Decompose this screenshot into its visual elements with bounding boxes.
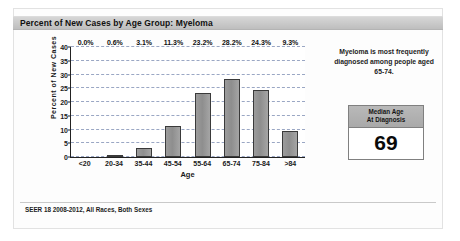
bar[interactable]: 9.3%: [282, 131, 298, 157]
bar-slot[interactable]: 9.3%: [276, 47, 305, 157]
median-age-box: Median Age At Diagnosis 69: [348, 105, 424, 160]
x-axis-tick-label: 75-84: [246, 160, 275, 167]
y-axis-tick-label: 35: [60, 57, 68, 64]
x-axis-title: Age: [70, 170, 305, 179]
median-age-header: Median Age At Diagnosis: [349, 106, 423, 128]
y-axis-tick-label: 30: [60, 71, 68, 78]
bar-slot[interactable]: 11.3%: [159, 47, 188, 157]
bar-slot[interactable]: 23.2%: [188, 47, 217, 157]
source-note: SEER 18 2008-2012, All Races, Both Sexes: [25, 206, 152, 213]
y-axis-tick-label: 10: [60, 126, 68, 133]
bar-slot[interactable]: 0.0%: [71, 47, 100, 157]
bar-value-label: 28.2%: [222, 39, 242, 46]
bar-slot[interactable]: 28.2%: [217, 47, 246, 157]
page-title: Percent of New Cases by Age Group: Myelo…: [13, 18, 213, 28]
bar-value-label: 0.6%: [107, 39, 123, 46]
footer-divider: [20, 202, 436, 203]
bar-value-label: 23.2%: [193, 39, 213, 46]
annotation-text: Myeloma is most frequently diagnosed amo…: [330, 47, 438, 77]
median-age-value: 69: [349, 128, 423, 159]
bar-series: 0.0%0.6%3.1%11.3%23.2%28.2%24.3%9.3%: [71, 47, 305, 157]
bar-value-label: 11.3%: [164, 39, 183, 46]
bar[interactable]: 23.2%: [195, 93, 211, 157]
y-axis-tick-label: 40: [60, 44, 68, 51]
bar-value-label: 9.3%: [282, 39, 298, 46]
x-axis-tick-label: 45-54: [158, 160, 187, 167]
median-age-header-line2: At Diagnosis: [349, 116, 423, 124]
x-axis-tick-label: 65-74: [217, 160, 246, 167]
x-axis-tick-labels: <2020-3435-4445-5455-6465-7475-84>84: [70, 160, 305, 167]
bar[interactable]: 24.3%: [253, 90, 269, 157]
y-axis-title: Percent of New Cases: [50, 33, 57, 123]
chart-title-bar: Percent of New Cases by Age Group: Myelo…: [13, 16, 443, 30]
y-axis-tick-label: 25: [60, 85, 68, 92]
bar[interactable]: 11.3%: [165, 126, 181, 157]
page-background: Percent of New Cases by Age Group: Myelo…: [0, 0, 460, 241]
bar-value-label: 0.0%: [78, 39, 94, 46]
bar[interactable]: 0.6%: [107, 155, 123, 157]
y-axis-tick-label: 20: [60, 99, 68, 106]
chart-container: Percent of New Cases 0510152025303540 0.…: [20, 36, 320, 196]
x-axis-tick-label: 20-34: [99, 160, 128, 167]
x-axis-tick-label: 55-64: [188, 160, 217, 167]
bar-slot[interactable]: 24.3%: [247, 47, 276, 157]
x-axis-tick-label: 35-44: [129, 160, 158, 167]
bar[interactable]: 28.2%: [224, 79, 240, 157]
bar-slot[interactable]: 3.1%: [130, 47, 159, 157]
bar[interactable]: 3.1%: [136, 148, 152, 157]
y-axis-tick-label: 15: [60, 112, 68, 119]
x-axis-tick-label: <20: [70, 160, 99, 167]
median-age-header-line1: Median Age: [349, 108, 423, 116]
bar-slot[interactable]: 0.6%: [100, 47, 129, 157]
bar-value-label: 3.1%: [136, 39, 152, 46]
plot-area: 0510152025303540 0.0%0.6%3.1%11.3%23.2%2…: [70, 47, 305, 158]
bar-value-label: 24.3%: [251, 39, 271, 46]
x-axis-tick-label: >84: [276, 160, 305, 167]
